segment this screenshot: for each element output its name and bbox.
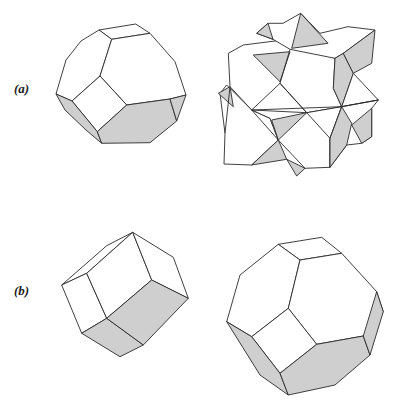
figure-label-a: (a) (14, 81, 29, 97)
truncated-octahedron-b (227, 237, 384, 395)
truncated-octahedron-a (56, 24, 186, 143)
elongated-dodecahedron-b (62, 232, 189, 356)
polyhedra-diagram (0, 0, 399, 407)
figure-label-b: (b) (14, 283, 29, 299)
stellated-solid-a (218, 13, 378, 176)
